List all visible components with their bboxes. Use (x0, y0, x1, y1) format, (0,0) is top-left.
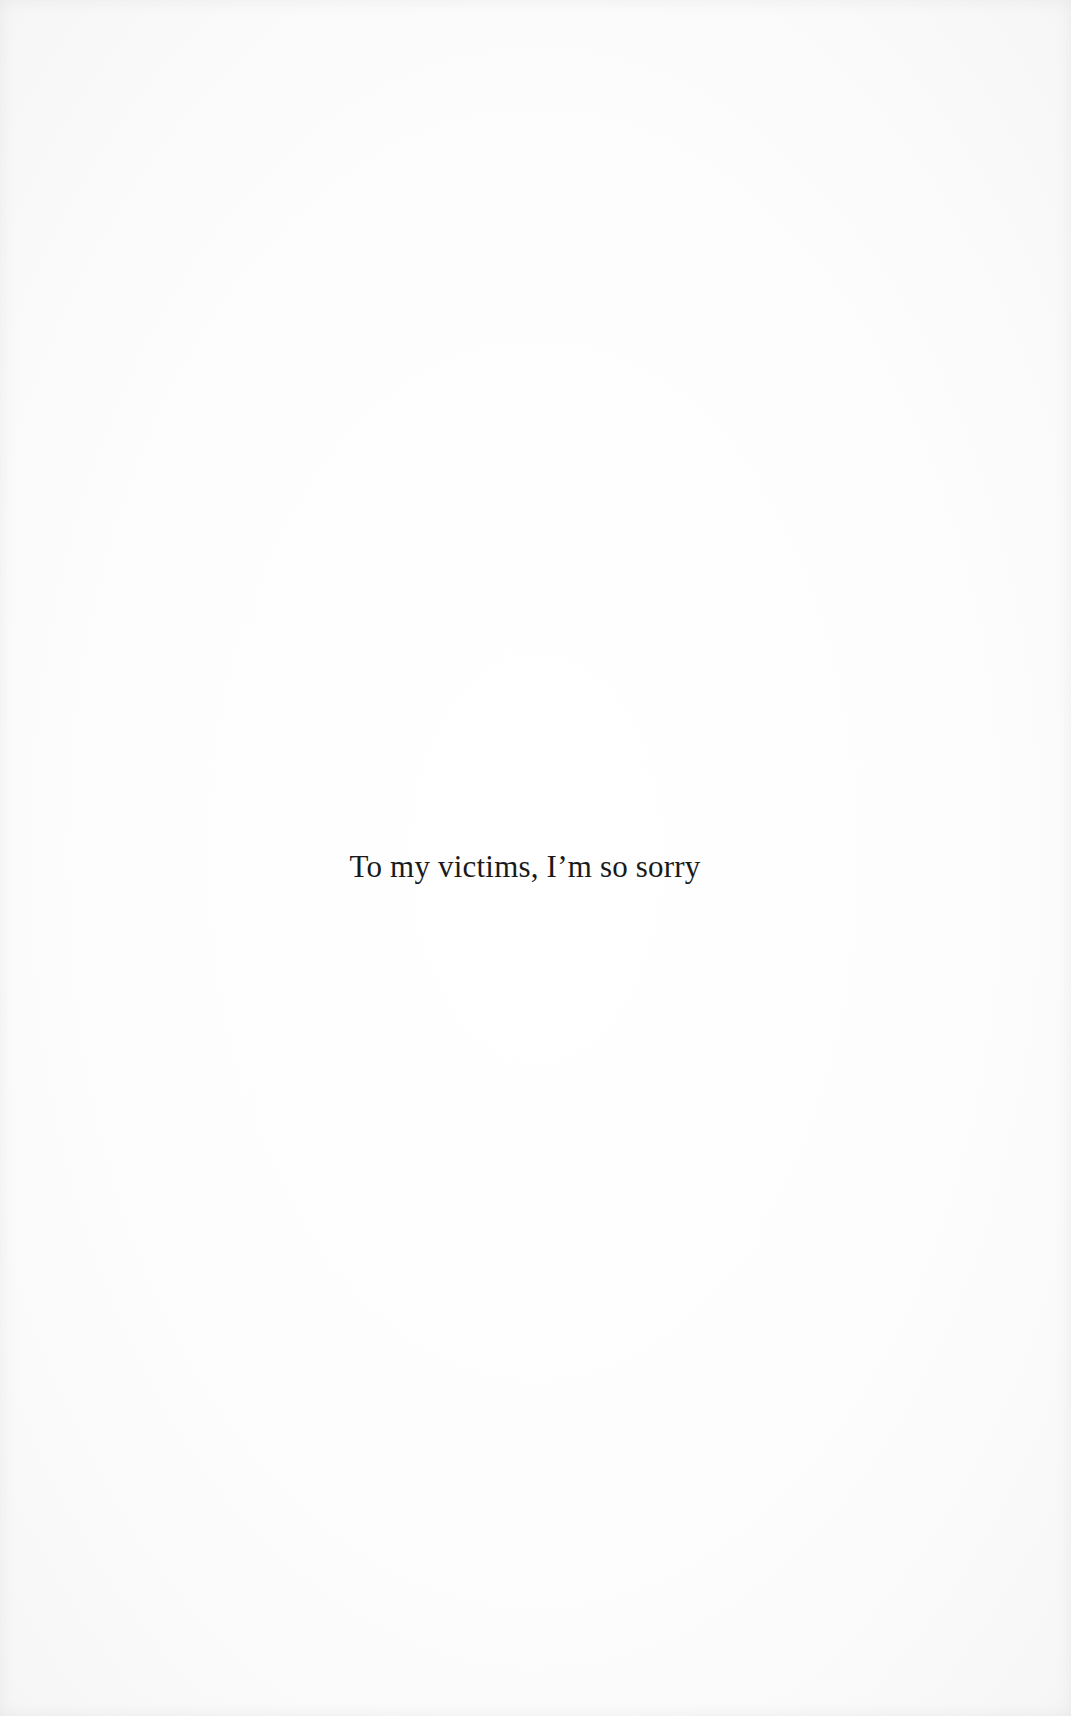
dedication-text: To my victims, I’m so sorry (0, 847, 1050, 887)
book-page: To my victims, I’m so sorry (0, 0, 1071, 1716)
